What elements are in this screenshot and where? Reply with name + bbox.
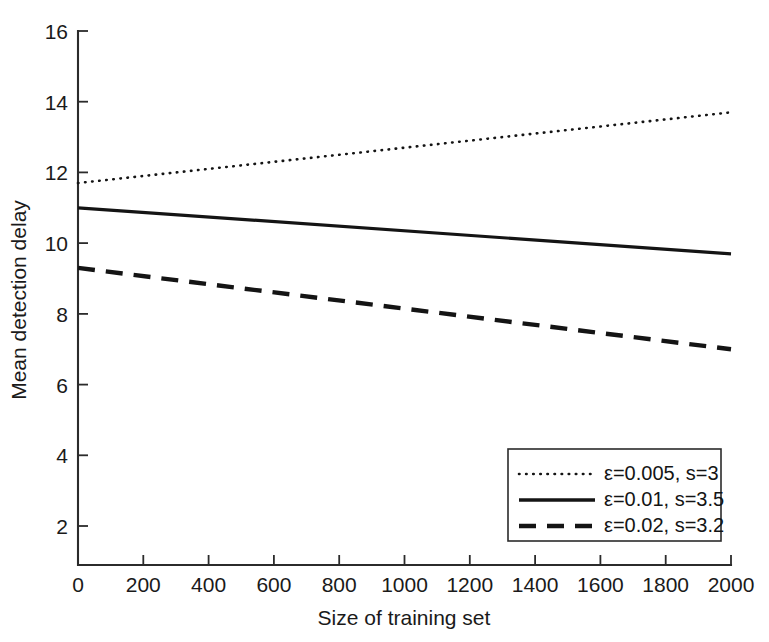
y-tick-label: 10 <box>45 232 68 255</box>
y-tick-labels: 16 14 12 10 8 6 4 2 <box>45 20 69 538</box>
series-line-dashed <box>78 268 731 349</box>
series-line-dotted <box>78 112 731 183</box>
x-tick-label: 200 <box>126 573 161 596</box>
legend-label-0: ε=0.005, s=3 <box>604 462 719 484</box>
y-tick-label: 8 <box>56 303 68 326</box>
series-group <box>78 112 731 349</box>
x-tick-label: 800 <box>322 573 357 596</box>
y-tick-label: 6 <box>56 374 68 397</box>
y-tick-label: 14 <box>45 91 69 114</box>
line-chart-canvas: 16 14 12 10 8 6 4 2 0 200 400 <box>0 0 769 642</box>
legend-label-1: ε=0.01, s=3.5 <box>604 488 724 510</box>
x-tick-label: 1800 <box>642 573 689 596</box>
x-axis-title: Size of training set <box>318 606 491 629</box>
y-tick-label: 4 <box>56 444 68 467</box>
x-tick-label: 0 <box>72 573 84 596</box>
legend[interactable]: ε=0.005, s=3 ε=0.01, s=3.5 ε=0.02, s=3.2 <box>508 449 724 541</box>
x-tick-label: 1000 <box>381 573 428 596</box>
x-tick-label: 1200 <box>446 573 493 596</box>
y-tick-label: 2 <box>56 515 68 538</box>
x-tick-labels: 0 200 400 600 800 1000 1200 1400 1600 18… <box>72 573 754 596</box>
x-tick-label: 400 <box>191 573 226 596</box>
x-tick-label: 1600 <box>577 573 624 596</box>
x-tick-marks <box>78 555 731 565</box>
y-tick-marks <box>78 31 88 526</box>
x-tick-label: 600 <box>256 573 291 596</box>
x-tick-label: 1400 <box>512 573 559 596</box>
legend-label-2: ε=0.02, s=3.2 <box>604 514 724 536</box>
x-tick-label: 2000 <box>708 573 755 596</box>
chart-figure: 16 14 12 10 8 6 4 2 0 200 400 <box>0 0 769 642</box>
y-tick-label: 12 <box>45 161 68 184</box>
y-tick-label: 16 <box>45 20 68 43</box>
y-axis-title: Mean detection delay <box>7 200 30 400</box>
series-line-solid <box>78 208 731 254</box>
